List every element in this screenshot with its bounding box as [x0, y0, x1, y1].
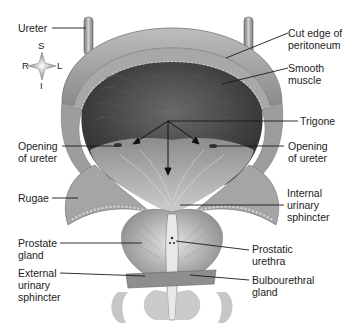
label-internal-urinary-sphincter: Internal urinary sphincter	[287, 187, 330, 223]
orientation-compass-icon	[28, 52, 56, 80]
compass-superior: S	[38, 40, 44, 51]
bladder-diagram: S R L I Ureter Cut edge of peritoneum Sm…	[0, 0, 359, 323]
compass-inferior: I	[40, 80, 43, 91]
label-opening-of-ureter-right: Opening of ureter	[288, 140, 328, 164]
ureter-left-tube	[84, 17, 93, 55]
label-prostatic-urethra: Prostatic urethra	[252, 243, 293, 267]
external-sphincter-band	[126, 270, 216, 288]
label-opening-of-ureter-left: Opening of ureter	[18, 140, 58, 164]
label-ureter: Ureter	[18, 22, 47, 34]
compass-left: L	[57, 60, 62, 71]
bulbourethral-gland-right	[176, 290, 200, 320]
label-bulbourethral-gland: Bulbourethral gland	[252, 274, 314, 298]
label-smooth-muscle: Smooth muscle	[288, 62, 324, 86]
label-rugae: Rugae	[18, 192, 49, 204]
compass-right: R	[22, 60, 29, 71]
bulbourethral-gland-left	[144, 290, 168, 320]
label-prostate-gland: Prostate gland	[18, 237, 57, 261]
label-cut-edge-peritoneum: Cut edge of peritoneum	[288, 27, 342, 51]
label-trigone: Trigone	[300, 115, 335, 127]
label-external-urinary-sphincter: External urinary sphincter	[18, 267, 61, 303]
